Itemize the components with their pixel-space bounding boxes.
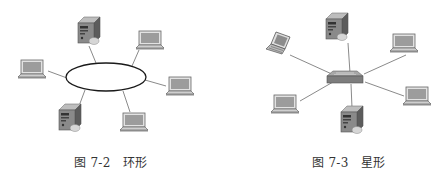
ring-topology [18, 17, 194, 132]
ring-bus [66, 63, 146, 91]
laptop-icon [166, 77, 194, 96]
server-icon [341, 106, 363, 134]
server-icon [59, 104, 81, 132]
laptop-icon [18, 60, 46, 79]
switch-icon [327, 71, 363, 83]
laptop-icon [120, 113, 148, 132]
laptop-icon [136, 31, 164, 50]
laptop-icon [271, 95, 299, 114]
server-icon [78, 17, 100, 45]
server-icon [326, 13, 348, 41]
laptop-icon [266, 32, 290, 54]
star-topology [266, 13, 431, 134]
laptop-icon [390, 34, 418, 53]
figure-caption-star: 图 7-3 星形 [312, 153, 386, 170]
figure-caption-ring: 图 7-2 环形 [74, 153, 148, 170]
laptop-icon [403, 87, 431, 106]
